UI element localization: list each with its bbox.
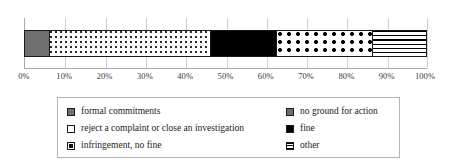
legend-column-right: no ground for action fine other (286, 103, 396, 154)
legend-swatch-icon-other (286, 142, 294, 150)
legend-label-reject-complaint: reject a complaint or close an investiga… (81, 123, 244, 134)
legend-item-other[interactable]: other (286, 137, 396, 154)
legend-swatch-icon-reject-complaint (67, 125, 75, 133)
x-tick-label-50: 50% (218, 71, 234, 81)
bar-segment-reject-complaint[interactable] (49, 30, 210, 57)
x-tick-label-10: 10% (56, 71, 72, 81)
legend-label-fine: fine (300, 123, 315, 134)
legend: formal commitments reject a complaint or… (57, 97, 400, 158)
x-tick-label-20: 20% (97, 71, 113, 81)
bar-segment-no-ground-for-action[interactable] (24, 30, 49, 57)
bar-segment-fine[interactable] (210, 30, 276, 57)
legend-swatch-icon-infringement-no-fine (67, 142, 75, 150)
x-tick-label-40: 40% (177, 71, 193, 81)
x-tick-label-90: 90% (379, 71, 395, 81)
x-tick-label-100: 100% (415, 71, 435, 81)
legend-column-left: formal commitments reject a complaint or… (67, 103, 282, 154)
stacked-bar-row (24, 30, 427, 57)
bar-segment-infringement-no-fine[interactable] (276, 30, 372, 57)
bar-segment-other[interactable] (372, 30, 427, 57)
legend-swatch-icon-fine (286, 125, 294, 133)
legend-item-infringement-no-fine[interactable]: infringement, no fine (67, 137, 282, 154)
legend-label-formal-commitments: formal commitments (81, 106, 160, 117)
x-tick-label-70: 70% (298, 71, 314, 81)
legend-item-formal-commitments[interactable]: formal commitments (67, 103, 282, 120)
legend-item-no-ground-for-action[interactable]: no ground for action (286, 103, 396, 120)
x-tick-label-80: 80% (338, 71, 354, 81)
legend-swatch-icon-no-ground-for-action (286, 108, 294, 116)
stacked-bar-chart: 0% 10% 20% 30% 40% 50% 60% 70% 80% 90% 1… (0, 0, 453, 164)
gridline-100 (427, 18, 428, 68)
legend-item-fine[interactable]: fine (286, 120, 396, 137)
x-tick-label-60: 60% (258, 71, 274, 81)
x-tick-label-30: 30% (137, 71, 153, 81)
legend-label-infringement-no-fine: infringement, no fine (81, 140, 161, 151)
legend-item-reject-complaint[interactable]: reject a complaint or close an investiga… (67, 120, 282, 137)
x-tick-label-0: 0% (18, 71, 30, 81)
legend-swatch-icon-formal-commitments (67, 108, 75, 116)
legend-label-other: other (300, 140, 320, 151)
legend-label-no-ground-for-action: no ground for action (300, 106, 378, 117)
x-axis-line (24, 68, 427, 69)
